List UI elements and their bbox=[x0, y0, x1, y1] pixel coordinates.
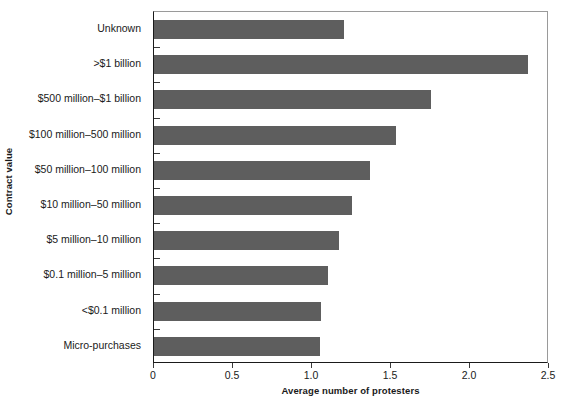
y-axis-tick bbox=[154, 82, 160, 83]
x-axis-tick-label: 2.0 bbox=[462, 369, 477, 381]
category-label: $10 million–50 million bbox=[41, 195, 141, 214]
bar bbox=[154, 90, 431, 109]
y-axis-tick bbox=[154, 153, 160, 154]
y-axis-tick bbox=[154, 47, 160, 48]
category-label: $0.1 million–5 million bbox=[44, 265, 141, 284]
x-axis-tick-label: 0 bbox=[150, 369, 156, 381]
y-axis-tick bbox=[154, 118, 160, 119]
category-axis-labels: Unknown>$1 billion$500 million–$1 billio… bbox=[18, 11, 147, 363]
x-axis-tick bbox=[311, 363, 312, 368]
category-label: >$1 billion bbox=[93, 54, 141, 73]
y-axis-tick bbox=[154, 223, 160, 224]
x-axis-tick-label: 1.5 bbox=[383, 369, 398, 381]
category-label: $5 million–10 million bbox=[46, 230, 141, 249]
x-axis-tick-label: 1.0 bbox=[304, 369, 319, 381]
bar bbox=[154, 55, 528, 74]
y-axis-tick bbox=[154, 329, 160, 330]
y-axis-tick bbox=[154, 188, 160, 189]
category-label: $500 million–$1 billion bbox=[38, 89, 141, 108]
x-axis-tick bbox=[232, 363, 233, 368]
bar bbox=[154, 196, 352, 215]
bar bbox=[154, 231, 339, 250]
x-axis-tick-label: 2.5 bbox=[541, 369, 556, 381]
y-axis-title: Contract value bbox=[0, 0, 18, 363]
bar bbox=[154, 337, 320, 356]
bar bbox=[154, 266, 328, 285]
plot-area bbox=[153, 11, 548, 363]
x-axis-tick bbox=[469, 363, 470, 368]
category-label: <$0.1 million bbox=[82, 301, 141, 320]
bar bbox=[154, 302, 321, 321]
bar bbox=[154, 20, 344, 39]
y-axis-tick bbox=[154, 294, 160, 295]
bar bbox=[154, 126, 396, 145]
category-label: Micro-purchases bbox=[63, 336, 141, 355]
category-label: Unknown bbox=[97, 19, 141, 38]
y-axis-title-label: Contract value bbox=[4, 148, 15, 215]
bar bbox=[154, 161, 370, 180]
x-axis-tick-label: 0.5 bbox=[225, 369, 240, 381]
x-axis-tick bbox=[390, 363, 391, 368]
x-axis-tick bbox=[153, 363, 154, 368]
y-axis-tick bbox=[154, 258, 160, 259]
x-axis-tick bbox=[548, 363, 549, 368]
x-axis-title: Average number of protesters bbox=[153, 385, 548, 396]
category-label: $100 million–500 million bbox=[29, 125, 141, 144]
category-label: $50 million–100 million bbox=[35, 160, 141, 179]
bar-chart: Contract value Unknown>$1 billion$500 mi… bbox=[0, 0, 567, 400]
